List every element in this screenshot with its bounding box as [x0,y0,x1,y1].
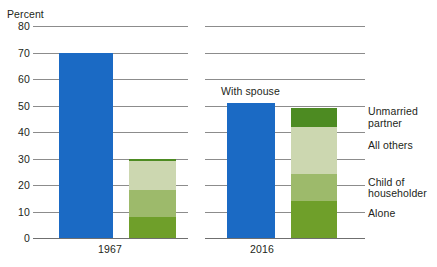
bar-segment-with-spouse [59,53,113,239]
gridline-0 [33,238,188,239]
y-axis-tick-70: 70 [0,47,30,59]
chart-container: Percent 01020304050607080 19672016With s… [0,0,437,267]
panel-1967 [33,26,188,238]
bar-2016-other-arrangements [291,108,337,238]
gridline-0 [205,238,365,239]
y-axis-tick-80: 80 [0,20,30,32]
gridline-80 [205,26,365,27]
y-axis-tick-0: 0 [0,232,30,244]
legend-label-alone: Alone [368,208,395,220]
y-axis-tick-60: 60 [0,73,30,85]
x-axis-label-2016: 2016 [250,243,274,255]
y-axis-tick-20: 20 [0,179,30,191]
y-axis-tick-30: 30 [0,153,30,165]
y-axis-tick-50: 50 [0,100,30,112]
bar-1967-other-arrangements [129,159,176,239]
bar-segment-alone [291,201,337,238]
bar-segment-alone [129,217,176,238]
y-axis-title: Percent [7,8,44,20]
y-axis-tick-40: 40 [0,126,30,138]
y-axis-tick-10: 10 [0,206,30,218]
bar-1967-with-spouse [59,53,113,239]
series-annotation-with-spouse: With spouse [221,85,280,97]
legend-label-unmarried-partner: Unmarried partner [368,106,418,129]
bar-segment-child-of-householder [129,190,176,217]
bar-segment-all-others [291,127,337,175]
bar-segment-all-others [129,161,176,190]
gridline-80 [33,26,188,27]
panel-2016 [205,26,365,238]
legend-label-child-of-householder: Child of householder [368,177,427,200]
bar-segment-unmarried-partner [291,108,337,127]
bar-segment-unmarried-partner [129,159,176,162]
gridline-70 [205,53,365,54]
bar-segment-with-spouse [227,103,275,238]
x-axis-label-1967: 1967 [98,243,122,255]
legend-label-all-others: All others [368,140,413,152]
gridline-60 [205,79,365,80]
bar-segment-child-of-householder [291,174,337,201]
bar-2016-with-spouse [227,103,275,238]
